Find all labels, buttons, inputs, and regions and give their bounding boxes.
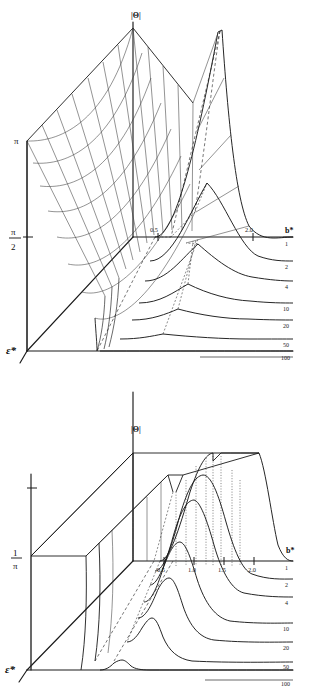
axes-bottom — [19, 392, 293, 682]
series-label-10-top: 10 — [283, 306, 289, 312]
curve-series-20-top — [132, 309, 293, 320]
curve-series-50-top — [120, 334, 293, 339]
ztick-pi-half-top: π 2 — [9, 227, 21, 252]
series-label-20-bottom: 20 — [283, 645, 289, 651]
curve-series-50-bottom — [127, 618, 293, 662]
xtick-label-1-bottom: 1.0 — [188, 566, 196, 573]
xtick-label-2-bottom: 1.5 — [218, 566, 226, 573]
chart-bottom-svg: |Θ| b* 0.5 1.0 1.5 2.0 1 π ε* 1 2 4 10 2… — [0, 370, 315, 700]
curve-series-4-bottom — [150, 500, 293, 597]
axes-top — [20, 22, 293, 363]
series-label-4-bottom: 4 — [285, 600, 288, 606]
figure-bottom: |Θ| b* 0.5 1.0 1.5 2.0 1 π ε* 1 2 4 10 2… — [0, 370, 315, 700]
theta-axis-label-bottom: |Θ| — [131, 425, 141, 434]
curve-series-1-top — [155, 30, 293, 238]
curve-series-10-bottom — [144, 542, 293, 623]
xtick-label-3-bottom: 2.0 — [248, 566, 256, 573]
theta-axis-label-top: |Θ| — [131, 11, 141, 20]
ztick-pi-half-numerator-top: π — [11, 227, 16, 237]
series-label-20-top: 20 — [283, 323, 289, 329]
figure-top: |Θ| b* 0.5 2.0 π π 2 ε* 1 2 4 10 20 50 1… — [0, 0, 315, 370]
curve-series-10-top — [139, 284, 293, 303]
ztick-pi-top: π — [14, 136, 19, 146]
series-label-100-top: 100 — [281, 355, 290, 361]
series-label-1-top: 1 — [285, 241, 288, 247]
series-label-50-bottom: 50 — [283, 664, 289, 670]
ztick-half-pi-numerator-bottom: 1 — [13, 548, 18, 558]
series-label-4-top: 4 — [285, 284, 288, 290]
b-axis-label-bottom: b* — [286, 546, 294, 555]
xtick-label-0-bottom: 0.5 — [157, 566, 165, 573]
series-label-100-bottom: 100 — [281, 681, 290, 687]
ztick-pi-half-denominator-top: 2 — [11, 242, 16, 252]
eps-axis-top — [27, 237, 133, 351]
series-label-1-bottom: 1 — [285, 565, 288, 571]
series-label-2-bottom: 2 — [285, 582, 288, 588]
ridge-dotted-bottom — [127, 456, 240, 642]
series-label-2-top: 2 — [285, 264, 288, 270]
resonance-curves-top — [100, 30, 293, 351]
depth-guides-bottom — [31, 453, 173, 661]
eps-axis-label-bottom: ε* — [5, 663, 16, 675]
eps-axis-bottom — [27, 561, 133, 670]
series-label-10-bottom: 10 — [283, 626, 289, 632]
curve-series-1-bottom — [160, 453, 293, 561]
ztick-half-pi-bottom: 1 π — [11, 548, 22, 571]
eps-axis-extension-top — [20, 351, 27, 363]
phase-surface-mesh-top — [27, 28, 195, 319]
eps-axis-extension-bottom — [19, 670, 27, 682]
b-axis-label-top: b* — [285, 226, 293, 235]
chart-top-svg: |Θ| b* 0.5 2.0 π π 2 ε* 1 2 4 10 20 50 1… — [0, 0, 315, 370]
eps-axis-label-top: ε* — [6, 344, 17, 356]
surface-skirt-top — [27, 141, 119, 351]
series-label-50-top: 50 — [283, 342, 289, 348]
xtick-label-0-top: 0.5 — [150, 226, 158, 233]
curve-series-4-top — [145, 244, 293, 281]
xtick-label-1-top: 2.0 — [245, 226, 253, 233]
ztick-half-pi-denominator-bottom: π — [13, 561, 18, 571]
plateau-surface-bottom — [31, 453, 259, 556]
